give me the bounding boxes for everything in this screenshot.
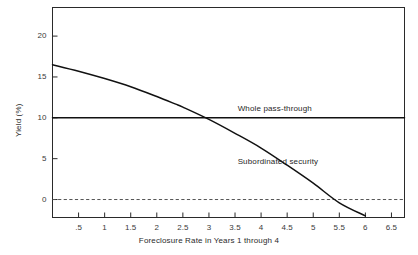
y-axis-tick-label: 0 xyxy=(9,195,47,204)
chart-plot-area xyxy=(0,0,418,255)
series-annotation-label: Whole pass-through xyxy=(238,104,312,113)
chart-figure: .511.522.533.544.555.566.505101520 Yield… xyxy=(0,0,418,255)
plot-frame xyxy=(53,8,405,218)
y-axis-tick-label: 5 xyxy=(9,154,47,163)
data-series-line xyxy=(53,65,366,216)
y-axis-tick-label: 20 xyxy=(9,31,47,40)
x-axis-ticks xyxy=(79,213,392,218)
x-axis-title: Foreclosure Rate in Years 1 through 4 xyxy=(0,236,418,245)
axes-frame xyxy=(53,8,405,218)
series-annotation-label: Subordinated security xyxy=(238,157,319,166)
x-axis-tick-label: 6.5 xyxy=(371,223,411,232)
y-axis-tick-label: 15 xyxy=(9,72,47,81)
y-axis-title: Yield (%) xyxy=(14,103,23,137)
data-series-group xyxy=(53,65,405,216)
